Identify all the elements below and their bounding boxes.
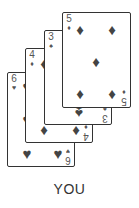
card-rank: 3 bbox=[101, 113, 109, 123]
heart-icon: ♥ bbox=[54, 146, 63, 161]
diamond-icon: ♦ bbox=[108, 86, 116, 101]
card-index-top: 6 ♥ bbox=[10, 74, 18, 91]
card-index-top: 5 ♦ bbox=[65, 14, 73, 31]
spade-icon: ♠ bbox=[47, 42, 55, 49]
card-index-bottom: 4 ♦ bbox=[82, 124, 90, 141]
card-rank: 5 bbox=[120, 96, 128, 106]
card-index-top: 3 ♠ bbox=[47, 32, 55, 49]
card-rank: 6 bbox=[10, 74, 18, 84]
diamond-icon: ♦ bbox=[108, 22, 116, 37]
diamond-icon: ♦ bbox=[28, 60, 36, 67]
card-rank: 3 bbox=[47, 32, 55, 42]
card-index-bottom: 5 ♦ bbox=[120, 89, 128, 106]
card-rank: 5 bbox=[65, 14, 73, 24]
diamond-icon: ♦ bbox=[92, 54, 100, 69]
diamond-icon: ♦ bbox=[120, 89, 128, 96]
diamond-icon: ♦ bbox=[82, 124, 90, 131]
card-5-diamonds[interactable]: 5 ♦ ♦ ♦ ♦ ♦ ♦ 5 ♦ bbox=[62, 12, 131, 108]
card-rank: 4 bbox=[28, 50, 36, 60]
card-index-top: 4 ♦ bbox=[28, 50, 36, 67]
card-rank: 6 bbox=[64, 155, 72, 165]
card-rank: 4 bbox=[82, 131, 90, 141]
card-index-bottom: 3 ♠ bbox=[101, 106, 109, 123]
heart-icon: ♥ bbox=[64, 148, 72, 155]
heart-icon: ♥ bbox=[10, 84, 18, 91]
diamond-icon: ♦ bbox=[65, 24, 73, 31]
heart-icon: ♥ bbox=[23, 146, 32, 161]
diamond-icon: ♦ bbox=[76, 86, 84, 101]
diamond-icon: ♦ bbox=[76, 22, 84, 37]
card-index-bottom: 6 ♥ bbox=[64, 148, 72, 165]
player-label: YOU bbox=[0, 181, 139, 197]
